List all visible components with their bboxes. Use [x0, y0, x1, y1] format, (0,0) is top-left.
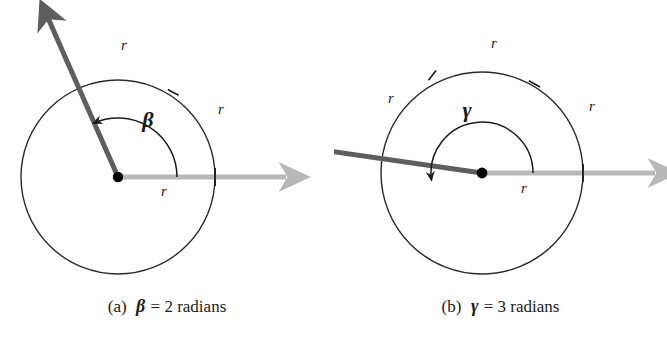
caption-b-symbol: γ	[470, 296, 480, 316]
panel-a-diagram: r r r β	[0, 0, 334, 338]
caption-b-rest: = 3 radians	[484, 297, 560, 316]
caption-b: (b) γ = 3 radians	[334, 296, 667, 317]
radius-label-arc-right-b: r	[589, 98, 595, 114]
radius-label-arc-top-b: r	[491, 35, 497, 51]
figure-container: r r r β (a) β = 2 radians	[0, 0, 667, 338]
panel-b: r r r r γ (b) γ = 3 radians	[334, 0, 667, 338]
caption-a-rest: = 2 radians	[151, 297, 227, 316]
caption-a-tag: (a)	[108, 297, 127, 316]
caption-a: (a) β = 2 radians	[0, 296, 334, 317]
terminal-side-ray-b	[334, 149, 482, 173]
radius-label-arc-left-b: r	[388, 90, 394, 106]
angle-label-gamma: γ	[462, 97, 472, 122]
angle-label-beta: β	[141, 107, 154, 132]
radius-label-initial-ray-b: r	[521, 180, 527, 196]
radius-label-arc-top-a: r	[121, 37, 127, 53]
vertex-dot-b	[477, 168, 488, 179]
terminal-side-ray-a	[48, 18, 118, 177]
panel-a: r r r β (a) β = 2 radians	[0, 0, 334, 338]
vertex-dot-a	[113, 172, 123, 182]
radius-label-arc-right-a: r	[218, 101, 224, 117]
panel-b-diagram: r r r r γ	[334, 0, 667, 338]
caption-b-tag: (b)	[442, 297, 462, 316]
arc-tick-2rad-b	[428, 71, 436, 81]
caption-a-symbol: β	[135, 296, 146, 316]
radius-label-initial-ray-a: r	[161, 183, 167, 199]
